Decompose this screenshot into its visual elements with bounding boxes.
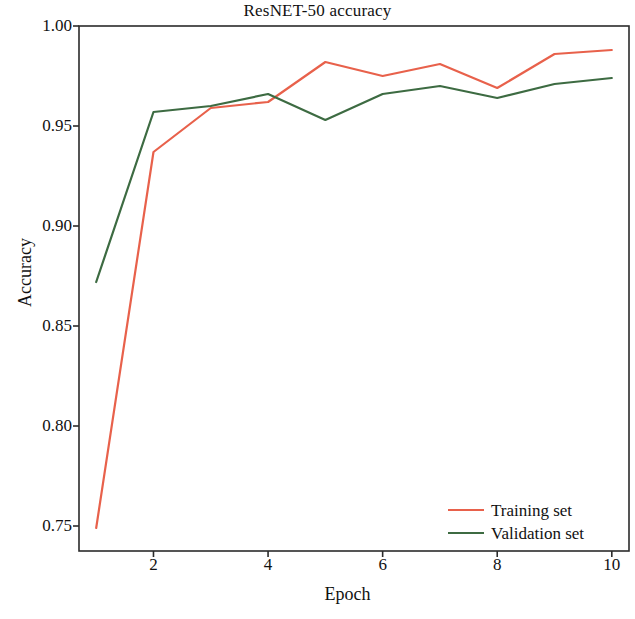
series-line-2 [96,78,612,282]
plot-frame [79,26,629,551]
chart-figure: ResNET-50 accuracy Accuracy Epoch 0.750.… [0,0,635,619]
legend-item[interactable]: Validation set [448,523,584,543]
series-line-1 [96,50,612,528]
legend-item[interactable]: Training set [448,500,584,520]
legend-line-swatch [448,532,484,534]
chart-legend: Training setValidation set [448,500,584,543]
legend-label: Validation set [491,525,584,542]
legend-line-swatch [448,509,484,511]
legend-label: Training set [491,502,572,519]
